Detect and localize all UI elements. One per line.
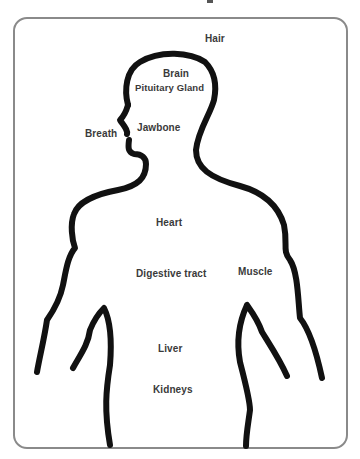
label-breath: Breath <box>85 128 117 139</box>
label-heart: Heart <box>156 217 182 228</box>
label-muscle: Muscle <box>238 266 273 277</box>
label-kidneys: Kidneys <box>153 384 193 395</box>
label-pituitary-gland: Pituitary Gland <box>135 82 204 93</box>
head-and-right-side-path <box>126 54 322 378</box>
label-jawbone: Jawbone <box>137 122 181 133</box>
right-inner-arm-path <box>238 305 287 446</box>
left-inner-arm-path <box>73 308 111 445</box>
face-path <box>120 105 128 134</box>
label-liver: Liver <box>158 343 182 354</box>
label-brain: Brain <box>163 68 189 79</box>
label-digestive-tract: Digestive tract <box>136 268 206 279</box>
label-hair: Hair <box>205 33 225 44</box>
